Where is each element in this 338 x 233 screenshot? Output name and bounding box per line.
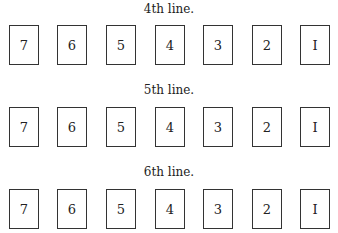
line-label: 4th line. bbox=[0, 2, 338, 16]
card-row: 765432I bbox=[0, 25, 338, 68]
card-box: 5 bbox=[106, 107, 136, 147]
card-row: 765432I bbox=[0, 189, 338, 232]
card-box: 3 bbox=[203, 25, 233, 65]
card-box: 5 bbox=[106, 189, 136, 229]
card-box: I bbox=[300, 25, 330, 65]
card-box: 7 bbox=[9, 107, 39, 147]
line-label: 5th line. bbox=[0, 83, 338, 97]
card-box: 2 bbox=[252, 189, 282, 229]
card-box: I bbox=[300, 189, 330, 229]
card-box: 4 bbox=[155, 25, 185, 65]
card-box: 7 bbox=[9, 189, 39, 229]
card-box: 4 bbox=[155, 189, 185, 229]
card-box: 6 bbox=[57, 107, 87, 147]
line-label: 6th line. bbox=[0, 165, 338, 179]
card-box: 3 bbox=[203, 107, 233, 147]
card-box: 2 bbox=[252, 25, 282, 65]
card-box: 3 bbox=[203, 189, 233, 229]
page: 4th line.765432I5th line.765432I6th line… bbox=[0, 0, 338, 233]
card-box: 7 bbox=[9, 25, 39, 65]
card-box: 6 bbox=[57, 189, 87, 229]
card-row: 765432I bbox=[0, 107, 338, 150]
card-box: 6 bbox=[57, 25, 87, 65]
card-box: I bbox=[300, 107, 330, 147]
card-box: 4 bbox=[155, 107, 185, 147]
card-box: 2 bbox=[252, 107, 282, 147]
card-box: 5 bbox=[106, 25, 136, 65]
